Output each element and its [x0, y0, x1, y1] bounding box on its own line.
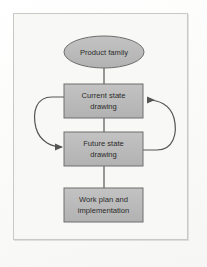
current-state-label-line1: Current state — [82, 91, 126, 100]
work-plan-label-line2: implementation — [78, 206, 130, 215]
figure-page: Product family Current state drawing Fut… — [0, 0, 207, 267]
future-state-rect — [64, 132, 143, 166]
left-feedback-curve — [35, 97, 64, 147]
current-state-rect — [64, 84, 143, 118]
current-state-label-line2: drawing — [90, 102, 117, 111]
right-feedback-curve — [143, 100, 175, 150]
node-future-state: Future state drawing — [64, 132, 143, 166]
future-state-label-line2: drawing — [90, 150, 117, 159]
work-plan-label-line1: Work plan and — [79, 195, 128, 204]
flow-diagram: Product family Current state drawing Fut… — [0, 0, 207, 267]
node-work-plan: Work plan and implementation — [64, 188, 143, 222]
node-product-family: Product family — [64, 36, 144, 68]
future-state-label-line1: Future state — [83, 139, 124, 148]
work-plan-rect — [64, 188, 143, 222]
product-family-label: Product family — [80, 48, 128, 57]
node-current-state: Current state drawing — [64, 84, 143, 118]
